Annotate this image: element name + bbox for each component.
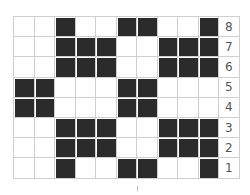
empty-cell	[117, 138, 138, 158]
filled-cell	[137, 98, 158, 118]
empty-cell	[14, 158, 35, 178]
empty-cell	[14, 37, 35, 57]
empty-cell	[14, 17, 35, 37]
filled-cell	[178, 37, 199, 57]
filled-cell	[137, 17, 158, 37]
empty-cell	[117, 57, 138, 77]
filled-cell	[158, 57, 179, 77]
filled-cell	[96, 37, 117, 57]
filled-cell	[76, 57, 97, 77]
empty-cell	[178, 98, 199, 118]
filled-cell	[199, 17, 220, 37]
filled-cell	[35, 78, 56, 98]
row-label: 1	[219, 158, 240, 178]
filled-cell	[158, 138, 179, 158]
tick-mark	[137, 186, 138, 191]
filled-cell	[96, 118, 117, 138]
empty-cell	[14, 118, 35, 138]
filled-cell	[117, 98, 138, 118]
empty-cell	[137, 118, 158, 138]
empty-cell	[14, 57, 35, 77]
filled-cell	[199, 37, 220, 57]
filled-cell	[178, 57, 199, 77]
empty-cell	[117, 37, 138, 57]
filled-cell	[199, 57, 220, 77]
empty-cell	[96, 158, 117, 178]
empty-cell	[96, 17, 117, 37]
filled-cell	[55, 158, 76, 178]
empty-cell	[55, 98, 76, 118]
filled-cell	[158, 118, 179, 138]
empty-cell	[76, 17, 97, 37]
row-label: 7	[219, 37, 240, 57]
empty-cell	[137, 37, 158, 57]
empty-cell	[35, 57, 56, 77]
filled-cell	[96, 138, 117, 158]
filled-cell	[76, 118, 97, 138]
filled-cell	[55, 118, 76, 138]
filled-cell	[35, 98, 56, 118]
empty-cell	[35, 118, 56, 138]
filled-cell	[199, 138, 220, 158]
empty-cell	[199, 78, 220, 98]
filled-cell	[76, 138, 97, 158]
filled-cell	[178, 118, 199, 138]
empty-cell	[76, 78, 97, 98]
empty-cell	[158, 78, 179, 98]
filled-cell	[14, 98, 35, 118]
filled-cell	[117, 78, 138, 98]
empty-cell	[96, 98, 117, 118]
empty-cell	[35, 158, 56, 178]
empty-cell	[178, 17, 199, 37]
filled-cell	[96, 57, 117, 77]
pattern-grid: 87654321	[13, 16, 240, 179]
empty-cell	[137, 138, 158, 158]
filled-cell	[117, 17, 138, 37]
filled-cell	[137, 78, 158, 98]
filled-cell	[55, 37, 76, 57]
filled-cell	[199, 118, 220, 138]
empty-cell	[158, 17, 179, 37]
empty-cell	[55, 78, 76, 98]
empty-cell	[178, 78, 199, 98]
row-label: 2	[219, 138, 240, 158]
filled-cell	[76, 37, 97, 57]
empty-cell	[14, 138, 35, 158]
filled-cell	[55, 57, 76, 77]
empty-cell	[178, 158, 199, 178]
row-label: 4	[219, 98, 240, 118]
filled-cell	[158, 37, 179, 57]
filled-cell	[137, 158, 158, 178]
empty-cell	[137, 57, 158, 77]
empty-cell	[117, 118, 138, 138]
row-label: 3	[219, 118, 240, 138]
filled-cell	[117, 158, 138, 178]
filled-cell	[55, 138, 76, 158]
empty-cell	[35, 17, 56, 37]
empty-cell	[35, 138, 56, 158]
row-label: 8	[219, 17, 240, 37]
filled-cell	[178, 138, 199, 158]
empty-cell	[76, 158, 97, 178]
empty-cell	[158, 158, 179, 178]
filled-cell	[55, 17, 76, 37]
empty-cell	[158, 98, 179, 118]
empty-cell	[76, 98, 97, 118]
empty-cell	[96, 78, 117, 98]
filled-cell	[14, 78, 35, 98]
row-label: 6	[219, 57, 240, 77]
filled-cell	[199, 158, 220, 178]
empty-cell	[35, 37, 56, 57]
row-label: 5	[219, 78, 240, 98]
empty-cell	[199, 98, 220, 118]
